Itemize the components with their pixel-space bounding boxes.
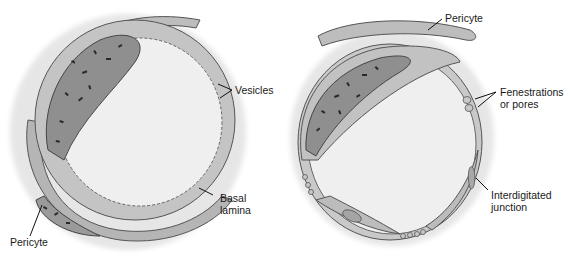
fenestrated-capillary [290,21,494,246]
label-fenestrations-1: Fenestrations [500,86,564,98]
continuous-capillary [10,14,246,250]
capillary-diagram: Vesicles Basal lamina Pericyte Pericyte … [0,0,571,256]
label-basal-lamina-2: lamina [220,204,251,216]
label-basal-lamina-1: Basal [220,192,246,204]
label-junction-2: junction [491,201,527,213]
label-vesicles: Vesicles [235,84,274,96]
label-fenestrations-2: or pores [500,98,539,110]
label-pericyte-right: Pericyte [445,12,483,24]
label-junction-1: Interdigitated [491,189,552,201]
capillary-illustration [0,0,571,256]
label-pericyte-left: Pericyte [10,236,48,248]
